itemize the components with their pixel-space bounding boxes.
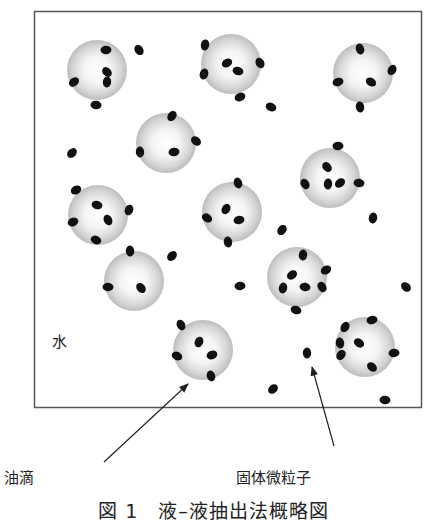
oil-droplet xyxy=(267,247,327,307)
oil-droplet xyxy=(300,148,360,208)
figure-caption: 図 1 液–液抽出法概略図 xyxy=(0,496,427,523)
solid-particle-label: 固体微粒子 xyxy=(236,466,311,487)
oil-droplet xyxy=(104,251,164,311)
oil-droplet-label: 油滴 xyxy=(4,466,34,487)
oil-droplet xyxy=(202,182,262,242)
oil-droplet xyxy=(136,113,196,173)
oil-droplet xyxy=(67,40,127,100)
water-label: 水 xyxy=(52,330,67,351)
solid-particle xyxy=(101,46,112,54)
